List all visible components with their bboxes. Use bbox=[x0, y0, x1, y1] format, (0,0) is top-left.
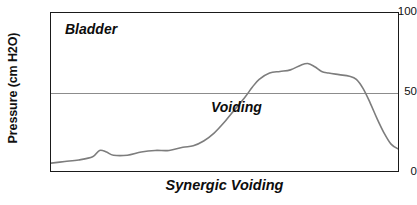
y-axis-title: Pressure (cm H2O) bbox=[2, 8, 24, 168]
urodynamics-pressure-chart: Pressure (cm H2O) 100 50 0 Bladder Voidi… bbox=[0, 0, 417, 205]
plot-area: Bladder Voiding bbox=[50, 12, 399, 172]
chart-caption: Synergic Voiding bbox=[50, 177, 399, 193]
annotation-voiding: Voiding bbox=[211, 99, 262, 115]
annotation-bladder: Bladder bbox=[65, 21, 117, 37]
